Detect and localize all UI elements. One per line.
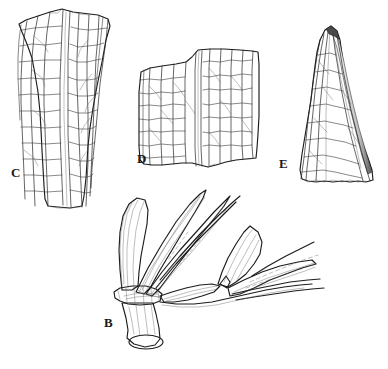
panel-label-d: D xyxy=(137,152,146,165)
panel-d-leaf-blade-fragment xyxy=(139,49,259,167)
plate-artwork xyxy=(0,0,388,369)
panel-label-e: E xyxy=(279,157,288,170)
panel-label-b: B xyxy=(104,316,113,329)
illustration-plate: C D E B xyxy=(0,0,388,369)
panel-label-c: C xyxy=(11,166,20,179)
